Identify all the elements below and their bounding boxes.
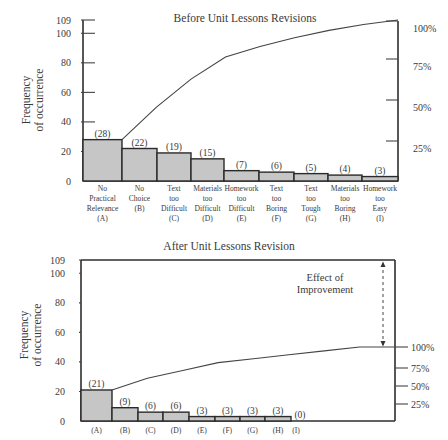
bar-value-label: (0) bbox=[294, 410, 305, 421]
category-label: No bbox=[98, 184, 107, 193]
category-label: Text bbox=[304, 184, 318, 193]
bar bbox=[112, 408, 138, 421]
category-label: too bbox=[306, 194, 316, 203]
y-tick-label: 100 bbox=[56, 28, 71, 39]
annotation-text: Improvement bbox=[297, 284, 354, 295]
category-label: Relevance bbox=[87, 204, 119, 213]
cumulative-curve bbox=[112, 347, 395, 390]
y-axis-label: Frequencyof occurrence bbox=[18, 304, 43, 367]
y-tick-label: 20 bbox=[61, 146, 71, 157]
y-axis-label: Frequencyof occurrence bbox=[20, 69, 45, 132]
y-tick-label: 109 bbox=[50, 255, 65, 266]
bar-value-label: (3) bbox=[374, 166, 385, 177]
category-label: too bbox=[169, 194, 179, 203]
category-label: (D) bbox=[202, 214, 213, 223]
bar-value-label: (3) bbox=[222, 406, 233, 417]
bar-value-label: (19) bbox=[166, 142, 182, 153]
y-tick-label: 80 bbox=[55, 297, 65, 308]
category-label: (A) bbox=[91, 426, 102, 435]
bar-value-label: (15) bbox=[200, 148, 216, 159]
y-tick-label: 109 bbox=[56, 15, 71, 26]
category-label: too bbox=[272, 194, 282, 203]
bar-value-label: (4) bbox=[339, 164, 350, 175]
category-label: (D) bbox=[171, 426, 182, 435]
category-label: Tough bbox=[301, 204, 320, 213]
category-label: (I) bbox=[292, 426, 300, 435]
bar bbox=[138, 412, 163, 421]
category-label: (A) bbox=[97, 214, 108, 223]
category-label: (B) bbox=[134, 204, 145, 213]
bar bbox=[265, 417, 291, 421]
category-label: Homework bbox=[224, 184, 258, 193]
pareto-charts: Before Unit Lessons RevisionsFrequencyof… bbox=[0, 0, 448, 440]
bar bbox=[157, 153, 191, 181]
pct-tick-label: 75% bbox=[411, 363, 429, 374]
category-label: (F) bbox=[223, 426, 233, 435]
category-label: Text bbox=[270, 184, 284, 193]
bar-value-label: (21) bbox=[89, 379, 105, 390]
category-label: (E) bbox=[237, 214, 247, 223]
bar-value-label: (3) bbox=[247, 406, 258, 417]
pct-tick-label: 50% bbox=[411, 381, 429, 392]
category-label: Materials bbox=[193, 184, 222, 193]
bar-value-label: (3) bbox=[272, 406, 283, 417]
category-label: (C) bbox=[169, 214, 180, 223]
bar bbox=[191, 159, 224, 181]
chart-title: After Unit Lessons Revision bbox=[163, 240, 295, 252]
category-label: Homework bbox=[363, 184, 397, 193]
pct-tick-label: 25% bbox=[411, 399, 429, 410]
bar bbox=[215, 417, 240, 421]
y-tick-label: 0 bbox=[66, 176, 71, 187]
bar bbox=[328, 175, 362, 181]
category-label: Boring bbox=[266, 204, 287, 213]
category-label: Text bbox=[167, 184, 181, 193]
pct-tick-label: 100% bbox=[411, 342, 434, 353]
category-label: Easy bbox=[373, 204, 388, 213]
arrow-down-icon bbox=[381, 341, 386, 347]
chart-after: After Unit Lessons RevisionFrequencyof o… bbox=[18, 240, 434, 435]
y-tick-label: 80 bbox=[61, 57, 71, 68]
category-label: (G) bbox=[247, 426, 258, 435]
annotation-text: Effect of bbox=[307, 272, 344, 283]
bar-value-label: (6) bbox=[271, 161, 282, 172]
category-label: Difficult bbox=[228, 204, 255, 213]
bar bbox=[163, 412, 189, 421]
category-label: (I) bbox=[376, 214, 384, 223]
category-label: (C) bbox=[145, 426, 156, 435]
category-label: No bbox=[135, 184, 144, 193]
category-label: (F) bbox=[272, 214, 282, 223]
chart-title: Before Unit Lessons Revisions bbox=[174, 12, 317, 24]
category-label: (H) bbox=[273, 426, 284, 435]
category-label: Practical bbox=[89, 194, 116, 203]
bar bbox=[189, 417, 215, 421]
category-label: too bbox=[375, 194, 385, 203]
bar-value-label: (3) bbox=[196, 406, 207, 417]
category-label: (B) bbox=[120, 426, 131, 435]
arrow-up-icon bbox=[381, 262, 386, 268]
category-label: too bbox=[237, 194, 247, 203]
pct-tick-label: 100% bbox=[413, 23, 436, 34]
pct-tick-label: 75% bbox=[413, 61, 431, 72]
bar bbox=[240, 417, 265, 421]
y-tick-label: 60 bbox=[61, 87, 71, 98]
bar-value-label: (7) bbox=[236, 160, 247, 171]
category-label: too bbox=[340, 194, 350, 203]
y-tick-label: 20 bbox=[55, 386, 65, 397]
bar bbox=[224, 171, 259, 181]
category-label: Choice bbox=[129, 194, 151, 203]
category-label: Difficult bbox=[194, 204, 221, 213]
y-tick-label: 40 bbox=[55, 356, 65, 367]
chart-before: Before Unit Lessons RevisionsFrequencyof… bbox=[20, 12, 436, 223]
category-label: too bbox=[203, 194, 213, 203]
y-tick-label: 60 bbox=[55, 327, 65, 338]
bar-value-label: (9) bbox=[119, 397, 130, 408]
category-label: (H) bbox=[340, 214, 351, 223]
bar-value-label: (6) bbox=[145, 401, 156, 412]
y-tick-label: 100 bbox=[50, 268, 65, 279]
bar-value-label: (6) bbox=[170, 401, 181, 412]
bar bbox=[122, 149, 157, 181]
y-tick-label: 0 bbox=[60, 416, 65, 427]
category-label: (G) bbox=[306, 214, 317, 223]
category-label: Difficult bbox=[161, 204, 188, 213]
bar-value-label: (5) bbox=[305, 163, 316, 174]
